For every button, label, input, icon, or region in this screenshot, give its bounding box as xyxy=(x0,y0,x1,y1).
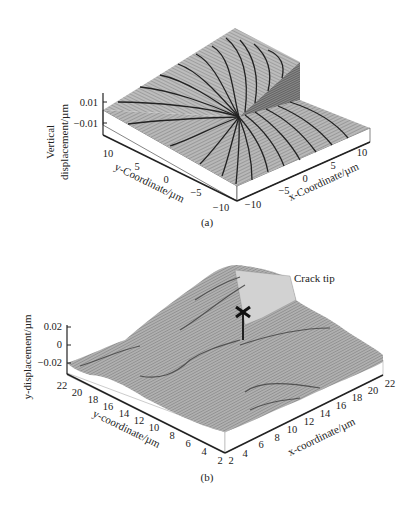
panel-b-xtick-9: 20 xyxy=(368,385,379,396)
panel-a-ztick-0: 0.01 xyxy=(80,97,98,108)
panel-a-caption: (a) xyxy=(201,216,214,229)
panel-b-ytick-4: 14 xyxy=(119,408,130,419)
panel-b-xtick-10: 22 xyxy=(385,378,396,389)
panel-b-ztick-2: −0.02 xyxy=(38,357,62,368)
panel-b-xtick-5: 12 xyxy=(304,416,315,427)
panel-b-xtick-6: 14 xyxy=(320,408,331,419)
panel-b: Crack tip 0.02 0 −0.02 y-displacement/µm… xyxy=(21,265,395,484)
panel-b-xtick-0: 2 xyxy=(228,455,233,466)
panel-b-caption: (b) xyxy=(201,471,214,484)
panel-b-ytick-9: 4 xyxy=(201,446,207,457)
panel-b-ytick-10: 2 xyxy=(217,455,222,466)
panel-b-ytick-1: 20 xyxy=(72,387,83,398)
panel-b-ztick-0: 0.02 xyxy=(44,321,62,332)
panel-a-xtick-0: −10 xyxy=(245,199,261,210)
panel-b-xtick-3: 8 xyxy=(274,432,279,443)
panel-b-ytick-5: 12 xyxy=(134,415,145,426)
panel-a: 0.01 −0.01 Vertical displacement/µm 10 5… xyxy=(44,28,370,229)
panel-b-ytick-2: 18 xyxy=(88,394,99,405)
figure-canvas: 0.01 −0.01 Vertical displacement/µm 10 5… xyxy=(0,0,416,505)
panel-b-xtick-4: 10 xyxy=(287,424,298,435)
panel-b-zlabel: y-displacement/µm xyxy=(21,314,33,400)
panel-a-zlabel-line1: Vertical xyxy=(44,125,56,159)
panel-b-ytick-7: 8 xyxy=(169,430,174,441)
panel-b-ytick-8: 6 xyxy=(185,438,190,449)
panel-a-xtick-4: 10 xyxy=(357,147,368,158)
panel-b-xtick-2: 6 xyxy=(258,439,263,450)
panel-a-ytick-0: 10 xyxy=(103,148,114,159)
panel-a-ytick-4: −10 xyxy=(213,202,229,213)
crack-tip-annotation: Crack tip xyxy=(294,272,335,284)
panel-a-ytick-3: −5 xyxy=(190,187,201,198)
panel-b-xlabel: x-coordinate/µm xyxy=(286,415,358,458)
panel-a-ztick-1: −0.01 xyxy=(74,118,98,129)
panel-b-ytick-0: 22 xyxy=(57,380,68,391)
panel-b-ztick-1: 0 xyxy=(57,339,62,350)
panel-b-xtick-8: 18 xyxy=(352,392,363,403)
panel-b-xtick-7: 16 xyxy=(336,400,347,411)
panel-a-zlabel-line2: displacement/µm xyxy=(58,104,70,180)
panel-b-ytick-6: 10 xyxy=(149,422,160,433)
panel-a-ylabel: y-Coordinate/µm xyxy=(113,160,187,204)
panel-b-xtick-1: 4 xyxy=(242,448,248,459)
